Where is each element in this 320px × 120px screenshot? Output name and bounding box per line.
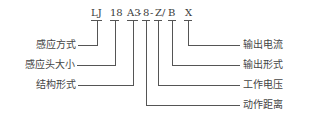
label-output-form: 输出形式 [243, 59, 283, 71]
label-working-voltage: 工作电压 [243, 79, 283, 91]
label-sensing-head-size: 感应头大小 [25, 59, 75, 71]
label-sensing-method: 感应方式 [36, 39, 76, 51]
label-action-distance: 动作距离 [243, 99, 283, 111]
label-structure-form: 结构形式 [36, 79, 76, 91]
label-output-current: 输出电流 [243, 39, 283, 51]
